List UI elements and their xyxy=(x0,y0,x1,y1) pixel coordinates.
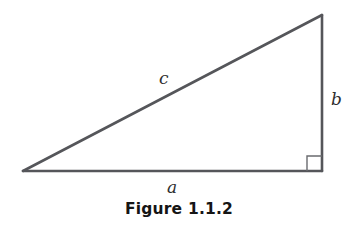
figure-caption: Figure 1.1.2 xyxy=(0,200,358,219)
right-angle-marker-icon xyxy=(307,156,322,171)
hypotenuse-label: c xyxy=(159,70,169,87)
figure-container: c b a Figure 1.1.2 xyxy=(0,0,358,226)
right-triangle-diagram xyxy=(0,0,358,226)
vertical-leg-label: b xyxy=(331,91,342,108)
horizontal-leg-label: a xyxy=(167,179,177,196)
hypotenuse-line xyxy=(23,15,322,171)
